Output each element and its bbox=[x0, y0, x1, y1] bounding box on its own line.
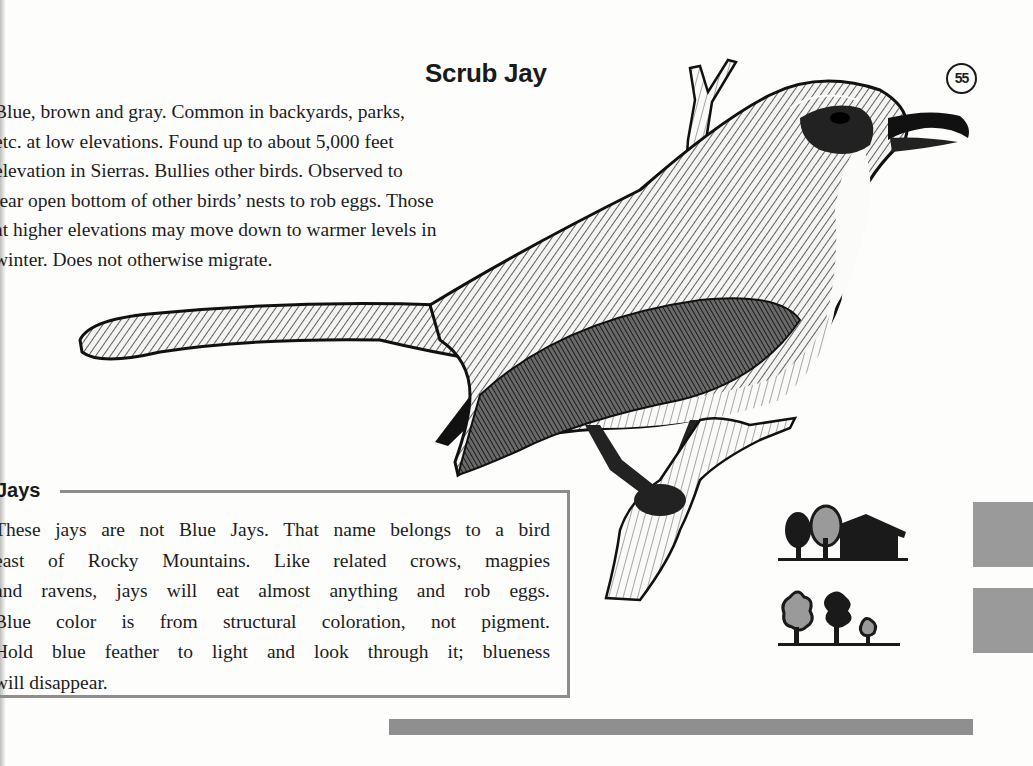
description-line: etc. at low elevations. Found up to abou… bbox=[0, 127, 554, 157]
branch bbox=[606, 418, 795, 600]
eye bbox=[830, 112, 850, 124]
trees-and-house-icon bbox=[776, 502, 911, 564]
description-line: at higher elevations may move down to wa… bbox=[0, 215, 554, 245]
bottom-accent-bar bbox=[389, 719, 973, 735]
sidebar-line: east of Rocky Mountains. Like related cr… bbox=[0, 546, 550, 577]
species-description: Blue, brown and gray. Common in backyard… bbox=[0, 97, 554, 275]
description-line: Blue, brown and gray. Common in backyard… bbox=[0, 97, 554, 127]
tail bbox=[80, 300, 480, 360]
beak-lower bbox=[890, 138, 958, 153]
sidebar-line: Blue color is from structural coloration… bbox=[0, 607, 550, 638]
woodland-trees-icon bbox=[776, 585, 906, 647]
description-line: elevation in Sierras. Bullies other bird… bbox=[0, 156, 554, 186]
description-line: tear open bottom of other birds’ nests t… bbox=[0, 186, 554, 216]
sidebar-line: and ravens, jays will eat almost anythin… bbox=[0, 576, 550, 607]
page-title: Scrub Jay bbox=[425, 58, 547, 89]
sidebar-line: Hold blue feather to light and look thro… bbox=[0, 637, 550, 668]
section-tab-lower bbox=[973, 588, 1033, 653]
sidebar-box-text: These jays are not Blue Jays. That name … bbox=[0, 515, 550, 698]
section-tab-upper bbox=[973, 502, 1033, 567]
page-number-badge: 55 bbox=[946, 63, 977, 94]
sidebar-line: will disappear. bbox=[0, 668, 550, 699]
sidebar-box-heading: Jays bbox=[0, 479, 41, 502]
sidebar-line: These jays are not Blue Jays. That name … bbox=[0, 515, 550, 546]
description-line: winter. Does not otherwise migrate. bbox=[0, 245, 554, 275]
foot-grip bbox=[634, 484, 686, 516]
